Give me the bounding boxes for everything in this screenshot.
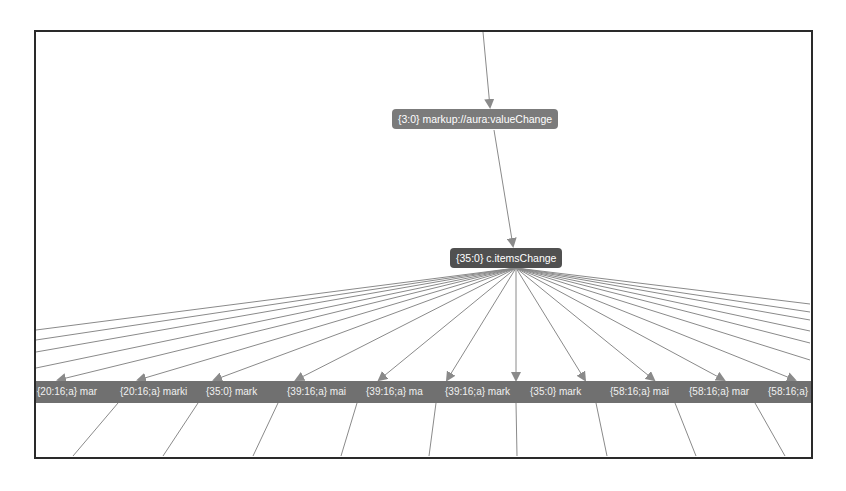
child-node[interactable]: {35:0} mark <box>527 381 607 403</box>
node-aura-value-change[interactable]: {3:0} markup://aura:valueChange <box>392 109 558 129</box>
child-node[interactable]: {39:16;a} mark <box>442 381 527 403</box>
child-node-row: {20:16;a} mar {20:16;a} marki {35:0} mar… <box>34 381 811 403</box>
child-node[interactable]: {20:16;a} mar <box>34 381 117 403</box>
child-node[interactable]: {39:16;a} ma <box>363 381 442 403</box>
child-node[interactable]: {20:16;a} marki <box>117 381 203 403</box>
child-node[interactable]: {35:0} mark <box>203 381 284 403</box>
child-node[interactable]: {39:16;a} mai <box>284 381 363 403</box>
child-node[interactable]: {58:16;a} mai <box>607 381 686 403</box>
child-node[interactable]: {58:16;a} mar <box>686 381 765 403</box>
child-node[interactable]: {58:16;a} mar <box>765 381 811 403</box>
node-items-change[interactable]: {35:0} c.itemsChange <box>450 248 562 268</box>
